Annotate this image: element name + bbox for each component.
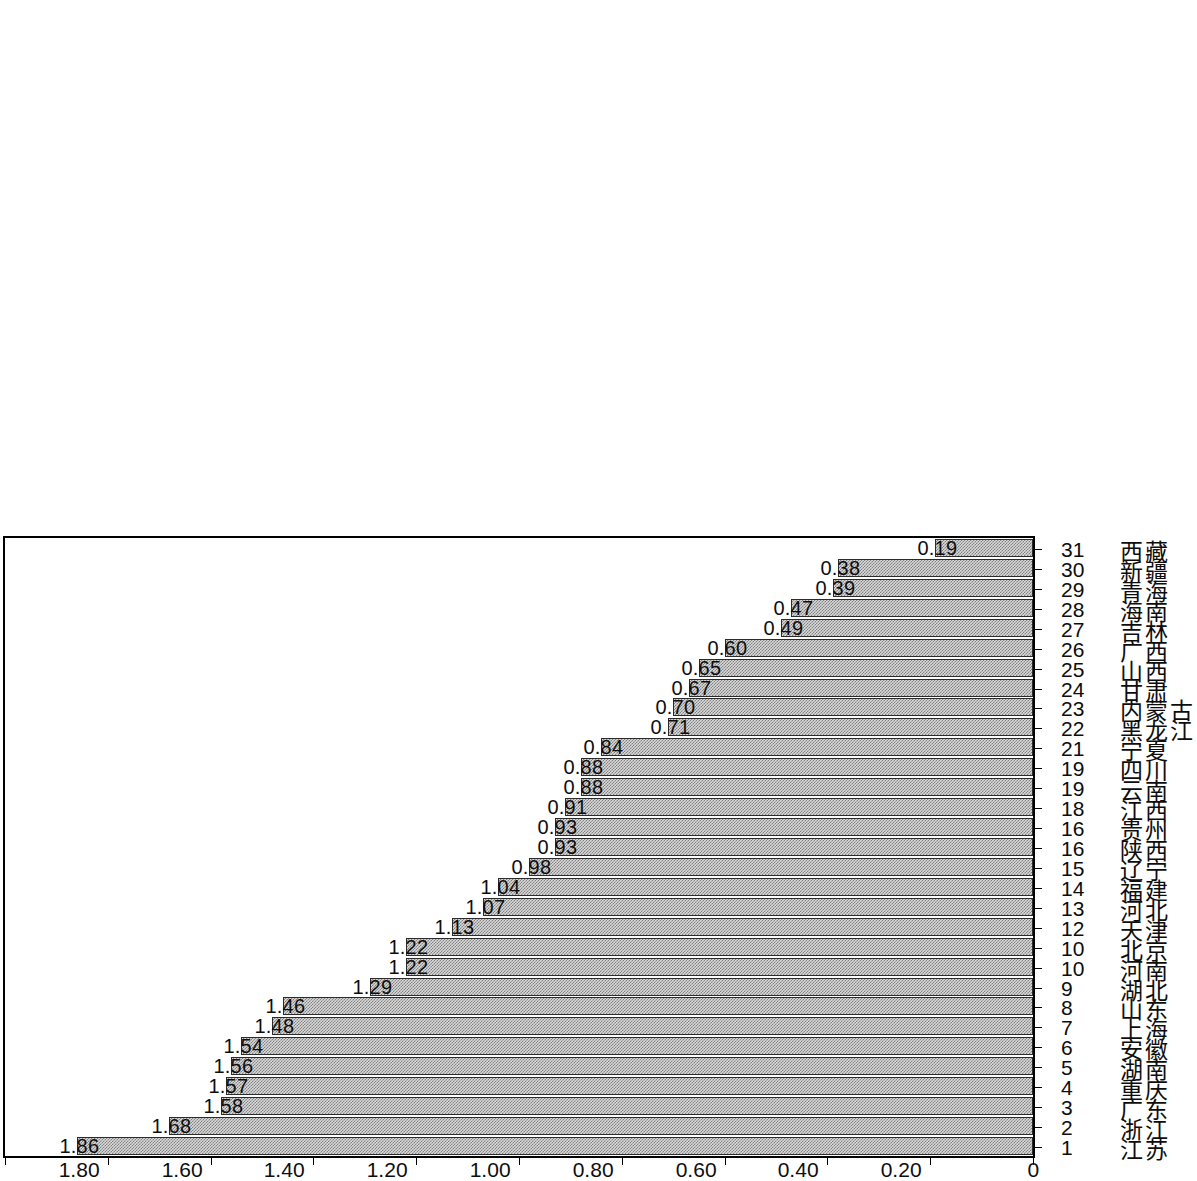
bar-slot: 0.88 xyxy=(5,757,1033,777)
bar[interactable] xyxy=(699,659,1033,677)
bar[interactable] xyxy=(283,998,1033,1016)
x-axis: 1江苏2浙江3广东4重庆5湖南6安徽7上海8山东9湖北10河南10北京12天津1… xyxy=(1035,536,1185,1158)
plot-area: 1.861.681.581.571.561.541.481.461.291.22… xyxy=(5,538,1033,1156)
bar-slot: 0.98 xyxy=(5,857,1033,877)
bar-value-label: 0.47 xyxy=(774,596,814,619)
bar-value-label: 0.84 xyxy=(584,736,624,759)
bar-slot: 0.84 xyxy=(5,737,1033,757)
bar[interactable] xyxy=(370,978,1033,996)
y-axis-tick xyxy=(416,1158,417,1165)
bar[interactable] xyxy=(529,858,1033,876)
bar-slot: 1.56 xyxy=(5,1056,1033,1076)
bar-value-label: 0.65 xyxy=(681,656,721,679)
bar-value-label: 1.46 xyxy=(265,995,305,1018)
bar-slot: 0.91 xyxy=(5,797,1033,817)
y-axis-label: 1.80 xyxy=(58,1158,99,1181)
bar[interactable] xyxy=(231,1057,1033,1075)
bar[interactable] xyxy=(838,559,1033,577)
bar-value-label: 1.07 xyxy=(466,895,506,918)
bar[interactable] xyxy=(673,698,1033,716)
bar[interactable] xyxy=(725,639,1033,657)
bar-value-label: 1.22 xyxy=(388,955,428,978)
bar-slot: 0.88 xyxy=(5,777,1033,797)
bar[interactable] xyxy=(498,878,1033,896)
bar[interactable] xyxy=(581,758,1033,776)
bar-value-label: 1.04 xyxy=(481,875,521,898)
bar[interactable] xyxy=(406,958,1033,976)
bar[interactable] xyxy=(226,1077,1033,1095)
bar-value-label: 0.91 xyxy=(548,796,588,819)
bar[interactable] xyxy=(581,778,1033,796)
bar-slot: 0.71 xyxy=(5,717,1033,737)
y-axis-tick xyxy=(622,1158,623,1165)
bar-value-label: 1.57 xyxy=(209,1075,249,1098)
y-axis-label: 1.00 xyxy=(470,1158,511,1181)
y-axis-tick xyxy=(827,1158,828,1165)
bar[interactable] xyxy=(452,918,1033,936)
y-axis-label: 0.80 xyxy=(572,1158,613,1181)
bar-slot: 0.70 xyxy=(5,698,1033,718)
bar[interactable] xyxy=(791,599,1033,617)
bar[interactable] xyxy=(668,718,1033,736)
bar[interactable] xyxy=(241,1037,1033,1055)
figure-canvas: 1.861.681.581.571.561.541.481.461.291.22… xyxy=(0,356,1188,1181)
bar[interactable] xyxy=(406,938,1033,956)
y-axis-tick xyxy=(211,1158,212,1165)
bar[interactable] xyxy=(555,838,1033,856)
category-rank-label: 22 xyxy=(1061,717,1084,741)
bar-slot: 0.67 xyxy=(5,678,1033,698)
bar-value-label: 1.56 xyxy=(214,1055,254,1078)
bar[interactable] xyxy=(169,1117,1033,1135)
bar-slot: 1.86 xyxy=(5,1136,1033,1156)
bar-value-label: 1.54 xyxy=(224,1035,264,1058)
bar[interactable] xyxy=(555,818,1033,836)
bar[interactable] xyxy=(833,579,1033,597)
bar[interactable] xyxy=(781,619,1033,637)
bar-value-label: 0.39 xyxy=(815,576,855,599)
bar[interactable] xyxy=(565,798,1033,816)
y-axis-tick xyxy=(108,1158,109,1165)
bar-value-label: 1.68 xyxy=(152,1115,192,1138)
bar-slot: 0.60 xyxy=(5,638,1033,658)
bar-value-label: 1.86 xyxy=(59,1135,99,1158)
bar-slot: 1.48 xyxy=(5,1016,1033,1036)
bar-value-label: 0.93 xyxy=(537,816,577,839)
bar-slot: 1.58 xyxy=(5,1096,1033,1116)
bar-slot: 1.57 xyxy=(5,1076,1033,1096)
bar-slot: 0.47 xyxy=(5,598,1033,618)
bar-slot: 0.38 xyxy=(5,558,1033,578)
y-axis-tick xyxy=(313,1158,314,1165)
bar-value-label: 1.58 xyxy=(203,1095,243,1118)
bar[interactable] xyxy=(77,1137,1033,1155)
bar-slot: 1.13 xyxy=(5,917,1033,937)
bar-value-label: 1.48 xyxy=(255,1015,295,1038)
bar-value-label: 0.88 xyxy=(563,776,603,799)
bar-slot: 1.22 xyxy=(5,937,1033,957)
bar[interactable] xyxy=(601,738,1033,756)
bar-value-label: 0.88 xyxy=(563,756,603,779)
bar-slot: 0.39 xyxy=(5,578,1033,598)
bar-slot: 0.65 xyxy=(5,658,1033,678)
bar-value-label: 1.29 xyxy=(352,975,392,998)
bar[interactable] xyxy=(483,898,1033,916)
bar[interactable] xyxy=(221,1097,1033,1115)
y-axis: 00.200.400.600.801.001.201.401.601.802.0… xyxy=(3,1158,1035,1181)
y-axis-tick xyxy=(519,1158,520,1165)
bar-slot: 1.04 xyxy=(5,877,1033,897)
bar-slot: 1.68 xyxy=(5,1116,1033,1136)
bar[interactable] xyxy=(272,1017,1033,1035)
figure-stage: 1.861.681.581.571.561.541.481.461.291.22… xyxy=(0,356,1188,1181)
y-axis-label: 0.60 xyxy=(675,1158,716,1181)
y-axis-tick xyxy=(725,1158,726,1165)
bar-value-label: 0.49 xyxy=(764,616,804,639)
category-name-label: 西藏 xyxy=(1120,533,1170,567)
bar-slot: 1.07 xyxy=(5,897,1033,917)
bar[interactable] xyxy=(689,679,1033,697)
y-axis-tick xyxy=(5,1158,6,1165)
bar-value-label: 0.38 xyxy=(820,556,860,579)
bar-slot: 0.49 xyxy=(5,618,1033,638)
bar-slot: 0.93 xyxy=(5,837,1033,857)
category-rank-label: 7 xyxy=(1061,1016,1073,1040)
y-axis-tick xyxy=(930,1158,931,1165)
bar-value-label: 1.22 xyxy=(388,935,428,958)
